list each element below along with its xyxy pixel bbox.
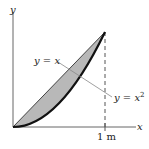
- line-y-equals-x: [13, 32, 105, 127]
- tick-label-1m: 1 m: [97, 131, 117, 142]
- x-axis-label: x: [137, 121, 143, 132]
- label-y-equals-x: y = x: [33, 55, 60, 66]
- y-axis-label: y: [9, 4, 16, 15]
- area-between-curves-diagram: y x y = x y = x2 1 m: [0, 0, 149, 149]
- label-y-equals-x-squared: y = x2: [113, 91, 145, 103]
